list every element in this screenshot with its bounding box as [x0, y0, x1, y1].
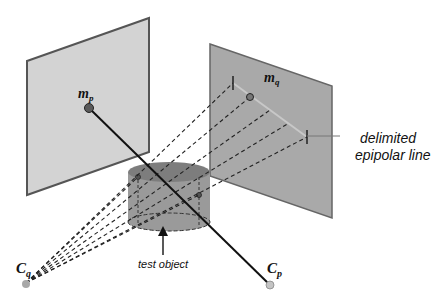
- label-cp: Cp: [267, 260, 282, 279]
- camera-center-cq: [22, 280, 30, 288]
- epipolar-geometry-diagram: mp mq Cq Cp delimited epipolar line test…: [0, 0, 444, 302]
- label-test-object: test object: [138, 258, 189, 270]
- label-cq: Cq: [16, 260, 31, 279]
- test-object-cylinder: [128, 162, 210, 231]
- camera-center-cp: [266, 281, 274, 289]
- image-point-mp: [85, 104, 94, 113]
- image-point-mq: [247, 94, 254, 101]
- label-epipolar-line: epipolar line: [355, 147, 431, 163]
- label-delimited: delimited: [360, 130, 417, 146]
